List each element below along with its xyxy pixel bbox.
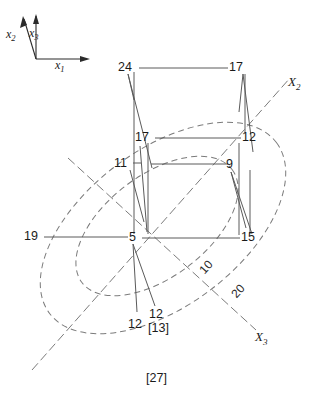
triad-label-x1: x1	[55, 59, 65, 74]
leader-9-b	[231, 172, 252, 234]
dimension-bracket-outer: [27]	[146, 372, 167, 385]
diagram-canvas: x2 x3 x1 X2 X3 24 17 17 12 11 9 19 5 15 …	[0, 0, 328, 408]
leader-17-top-a	[239, 74, 243, 112]
dimension-top-left: 24	[118, 61, 132, 74]
dimension-base-right: 15	[241, 231, 255, 244]
dimension-lines	[44, 68, 241, 238]
axis-label-x2: X2	[288, 75, 300, 92]
dimension-bottom-right: 12	[149, 308, 163, 321]
extension-lines	[134, 72, 250, 235]
diagram-vector-layer	[0, 0, 328, 408]
dimension-bottom-left: 12	[128, 318, 142, 331]
dimension-inner-right: 9	[226, 158, 233, 171]
axis-x3-centerline	[68, 158, 256, 330]
triad-x3-arrowhead	[33, 14, 39, 24]
triad-label-x2: x2	[6, 28, 16, 43]
dimension-bracket-inner: [13]	[148, 322, 169, 335]
leader-lines	[128, 74, 253, 312]
dimension-inner-left: 11	[114, 157, 127, 170]
triad-label-x3: x3	[29, 27, 39, 42]
dimension-mid-right: 12	[242, 131, 256, 144]
dimension-top-right: 17	[229, 61, 243, 74]
dimension-base-left: 19	[24, 230, 38, 243]
dimension-base-center: 5	[129, 231, 136, 244]
triad-x1-arrowhead	[80, 56, 90, 62]
leader-24-b	[128, 74, 152, 168]
axis-label-x3: X3	[255, 330, 267, 347]
dimension-mid-left: 17	[135, 131, 149, 144]
